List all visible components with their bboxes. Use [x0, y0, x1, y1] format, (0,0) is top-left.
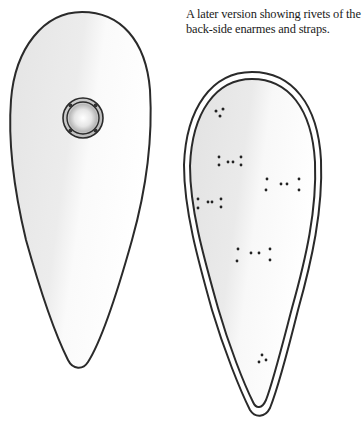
front-shield [10, 12, 150, 368]
boss-dome [69, 104, 97, 132]
back-shield-inner-rim [190, 79, 315, 407]
front-shield-body [10, 12, 150, 368]
boss-rivet [69, 104, 73, 108]
shield-illustration [0, 0, 362, 431]
boss-rivet [69, 129, 73, 133]
back-shield [184, 72, 321, 416]
boss-rivet [94, 129, 98, 133]
shield-boss [63, 98, 103, 138]
boss-rivet [94, 104, 98, 108]
